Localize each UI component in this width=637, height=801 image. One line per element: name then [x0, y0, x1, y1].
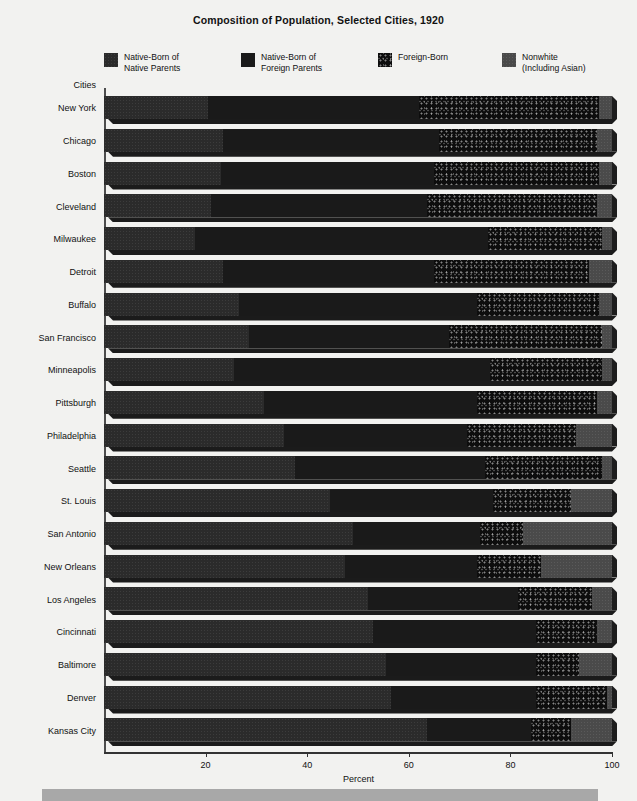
bar-segment[interactable]: [104, 424, 284, 447]
stacked-bar[interactable]: [104, 686, 612, 709]
stacked-bar[interactable]: [104, 96, 612, 119]
bar-segment[interactable]: [104, 686, 391, 709]
bar-segment[interactable]: [485, 456, 602, 479]
stacked-bar[interactable]: [104, 555, 612, 578]
stacked-bar[interactable]: [104, 653, 612, 676]
bar-segment[interactable]: [597, 194, 612, 217]
stacked-bar[interactable]: [104, 325, 612, 348]
bar-segment[interactable]: [223, 260, 434, 283]
stacked-bar[interactable]: [104, 358, 612, 381]
bar-segment[interactable]: [104, 489, 330, 512]
stacked-bar[interactable]: [104, 522, 612, 545]
bar-segment[interactable]: [480, 522, 523, 545]
bar-segment[interactable]: [208, 96, 419, 119]
bar-segment[interactable]: [239, 293, 478, 316]
bar-segment[interactable]: [477, 293, 599, 316]
bar-segment[interactable]: [541, 555, 612, 578]
stacked-bar[interactable]: [104, 227, 612, 250]
legend-item-nonwhite[interactable]: Nonwhite (Including Asian): [502, 52, 586, 74]
bar-segment[interactable]: [104, 260, 223, 283]
bar-segment[interactable]: [295, 456, 486, 479]
stacked-bar[interactable]: [104, 620, 612, 643]
bar-segment[interactable]: [518, 587, 592, 610]
bar-segment[interactable]: [104, 522, 353, 545]
bar-segment[interactable]: [104, 129, 223, 152]
bar-segment[interactable]: [104, 358, 234, 381]
bar-segment[interactable]: [104, 456, 295, 479]
bar-segment[interactable]: [353, 522, 480, 545]
bar-segment[interactable]: [345, 555, 477, 578]
bar-segment[interactable]: [488, 227, 602, 250]
bar-segment[interactable]: [571, 718, 612, 741]
bar-segment[interactable]: [599, 96, 612, 119]
bar-segment[interactable]: [597, 391, 612, 414]
bar-segment[interactable]: [602, 325, 612, 348]
bar-segment[interactable]: [104, 162, 221, 185]
bar-segment[interactable]: [597, 620, 612, 643]
bar-segment[interactable]: [368, 587, 518, 610]
bar-segment[interactable]: [599, 162, 612, 185]
bar-segment[interactable]: [493, 489, 572, 512]
bar-segment[interactable]: [427, 718, 531, 741]
bar-segment[interactable]: [104, 653, 386, 676]
stacked-bar[interactable]: [104, 129, 612, 152]
bar-segment[interactable]: [579, 653, 612, 676]
bar-segment[interactable]: [490, 358, 602, 381]
bar-segment[interactable]: [602, 358, 612, 381]
bar-segment[interactable]: [284, 424, 467, 447]
bar-segment[interactable]: [602, 227, 612, 250]
stacked-bar[interactable]: [104, 293, 612, 316]
bar-segment[interactable]: [104, 718, 427, 741]
bar-segment[interactable]: [434, 260, 589, 283]
bar-segment[interactable]: [536, 653, 579, 676]
bar-segment[interactable]: [104, 293, 239, 316]
bar-segment[interactable]: [467, 424, 576, 447]
bar-segment[interactable]: [599, 293, 612, 316]
bar-segment[interactable]: [104, 194, 211, 217]
bar-segment[interactable]: [386, 653, 536, 676]
bar-segment[interactable]: [104, 620, 373, 643]
bar-segment[interactable]: [264, 391, 477, 414]
bar-segment[interactable]: [427, 194, 597, 217]
bar-segment[interactable]: [536, 686, 607, 709]
stacked-bar[interactable]: [104, 391, 612, 414]
bar-segment[interactable]: [223, 129, 439, 152]
bar-segment[interactable]: [571, 489, 612, 512]
bar-segment[interactable]: [602, 456, 612, 479]
stacked-bar[interactable]: [104, 162, 612, 185]
legend-item-foreign_born[interactable]: Foreign-Born: [378, 52, 448, 67]
bar-segment[interactable]: [195, 227, 487, 250]
bar-segment[interactable]: [576, 424, 612, 447]
stacked-bar[interactable]: [104, 194, 612, 217]
bar-segment[interactable]: [434, 162, 599, 185]
bar-segment[interactable]: [589, 260, 612, 283]
bar-segment[interactable]: [477, 391, 596, 414]
bar-segment[interactable]: [373, 620, 536, 643]
bar-segment[interactable]: [104, 227, 195, 250]
bar-segment[interactable]: [211, 194, 427, 217]
bar-segment[interactable]: [607, 686, 612, 709]
bar-segment[interactable]: [391, 686, 536, 709]
bar-segment[interactable]: [104, 555, 345, 578]
legend-item-native_native[interactable]: Native-Born of Native Parents: [104, 52, 180, 74]
bar-segment[interactable]: [234, 358, 491, 381]
stacked-bar[interactable]: [104, 456, 612, 479]
bar-segment[interactable]: [477, 555, 541, 578]
bar-segment[interactable]: [536, 620, 597, 643]
bar-segment[interactable]: [531, 718, 572, 741]
bar-segment[interactable]: [104, 325, 249, 348]
bar-segment[interactable]: [597, 129, 612, 152]
legend-item-native_foreign[interactable]: Native-Born of Foreign Parents: [241, 52, 322, 74]
stacked-bar[interactable]: [104, 489, 612, 512]
bar-segment[interactable]: [439, 129, 596, 152]
bar-segment[interactable]: [449, 325, 601, 348]
bar-segment[interactable]: [330, 489, 493, 512]
bar-segment[interactable]: [523, 522, 612, 545]
bar-segment[interactable]: [104, 587, 368, 610]
stacked-bar[interactable]: [104, 718, 612, 741]
bar-segment[interactable]: [419, 96, 599, 119]
stacked-bar[interactable]: [104, 587, 612, 610]
bar-segment[interactable]: [104, 96, 208, 119]
stacked-bar[interactable]: [104, 260, 612, 283]
bar-segment[interactable]: [221, 162, 434, 185]
